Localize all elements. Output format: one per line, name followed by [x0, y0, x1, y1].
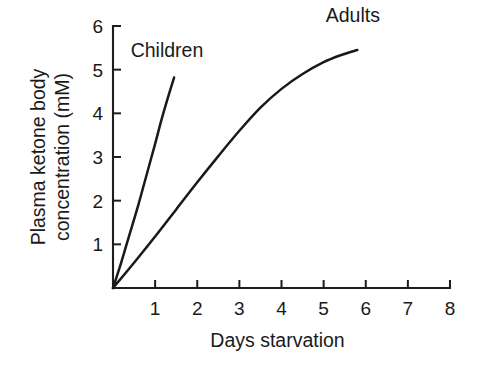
x-tick-label: 8: [445, 298, 456, 319]
series-line-children: [113, 78, 174, 288]
y-tick-label: 4: [92, 103, 103, 124]
y-tick-label: 2: [92, 191, 103, 212]
x-tick-label: 4: [276, 298, 287, 319]
series-labels: ChildrenAdults: [131, 4, 380, 61]
y-axis-title-line1: Plasma ketone body: [27, 68, 49, 245]
y-tick-label: 6: [92, 16, 103, 37]
x-tick-label: 6: [360, 298, 371, 319]
series-label-adults: Adults: [326, 4, 380, 26]
chart-figure: 12345612345678 ChildrenAdults Days starv…: [0, 0, 482, 370]
axes: [113, 26, 450, 288]
plot-area: 12345612345678 ChildrenAdults Days starv…: [0, 0, 482, 370]
axis-titles: Days starvationPlasma ketone bodyconcent…: [27, 68, 345, 351]
tick-marks: [113, 26, 450, 288]
x-tick-label: 3: [234, 298, 245, 319]
x-tick-label: 1: [150, 298, 161, 319]
data-curves: [113, 50, 357, 288]
tick-labels: 12345612345678: [92, 16, 455, 319]
y-tick-label: 5: [92, 60, 103, 81]
x-tick-label: 2: [192, 298, 203, 319]
y-axis-title: Plasma ketone bodyconcentration (mM): [27, 68, 73, 245]
x-axis-title: Days starvation: [210, 329, 344, 351]
y-tick-label: 1: [92, 234, 103, 255]
y-tick-label: 3: [92, 147, 103, 168]
series-label-children: Children: [131, 39, 204, 61]
x-tick-label: 7: [403, 298, 414, 319]
series-line-adults: [113, 50, 357, 288]
y-axis-title-line2: concentration (mM): [51, 73, 73, 241]
x-tick-label: 5: [318, 298, 329, 319]
